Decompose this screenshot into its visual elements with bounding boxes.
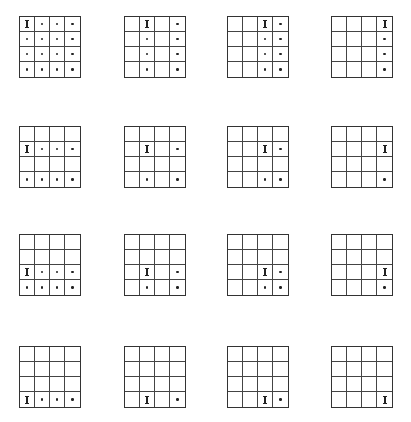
grid-cell	[170, 157, 185, 172]
grid-cell	[65, 347, 80, 362]
grid-cell	[155, 347, 170, 362]
dot-marker-icon	[56, 286, 58, 288]
grid-cell	[362, 172, 377, 187]
grid-cell	[35, 172, 50, 187]
dot-marker-icon	[71, 398, 73, 400]
grid-cell	[65, 32, 80, 47]
grid-cell	[332, 250, 347, 265]
grid-cell	[65, 17, 80, 32]
grid-cell	[20, 265, 35, 280]
dot-marker-icon	[279, 23, 281, 25]
grid-cell	[65, 142, 80, 157]
grid-cell	[140, 32, 155, 47]
grid-cell	[125, 142, 140, 157]
dot-marker-icon	[279, 271, 281, 273]
grid-cell	[50, 280, 65, 295]
dot-marker-icon	[176, 68, 178, 70]
dot-marker-icon	[279, 68, 281, 70]
grid-cell	[35, 142, 50, 157]
grid-cell	[273, 62, 288, 77]
grid-cell	[35, 392, 50, 407]
grid-cell	[20, 62, 35, 77]
dot-marker-icon	[26, 38, 28, 40]
grid-cell	[20, 377, 35, 392]
grid-cell	[155, 235, 170, 250]
grid-cell	[20, 362, 35, 377]
grid-cell	[347, 265, 362, 280]
grid-cell	[35, 265, 50, 280]
grid-cell	[65, 235, 80, 250]
grid-cell	[125, 265, 140, 280]
grid-cell	[243, 347, 258, 362]
grid-cell	[228, 347, 243, 362]
grid-cell	[155, 172, 170, 187]
grid-cell	[228, 392, 243, 407]
grid-cell	[140, 47, 155, 62]
grid-cell	[155, 32, 170, 47]
grid-cell	[50, 235, 65, 250]
grid-cell	[347, 362, 362, 377]
dot-marker-icon	[146, 53, 148, 55]
dot-marker-icon	[176, 398, 178, 400]
grid-cell	[125, 280, 140, 295]
grid-cell	[258, 347, 273, 362]
grid-cell	[258, 265, 273, 280]
grid-cell	[140, 127, 155, 142]
grid-cell	[273, 127, 288, 142]
grid-cell	[243, 280, 258, 295]
dot-marker-icon	[71, 178, 73, 180]
grid-cell	[35, 127, 50, 142]
grid-cell	[170, 347, 185, 362]
grid-cell	[347, 17, 362, 32]
grid-cell	[243, 32, 258, 47]
grid-cell	[170, 280, 185, 295]
grid-cell	[332, 47, 347, 62]
grid-cell	[50, 172, 65, 187]
lattice-grid-r3-c0	[19, 346, 81, 408]
grid-cell	[258, 157, 273, 172]
grid-cell	[50, 392, 65, 407]
dot-marker-icon	[56, 23, 58, 25]
grid-cell	[273, 17, 288, 32]
grid-cell	[20, 250, 35, 265]
grid-cell	[35, 17, 50, 32]
dot-marker-icon	[71, 23, 73, 25]
grid-cell	[35, 377, 50, 392]
grid-cell	[332, 392, 347, 407]
grid-cell	[155, 142, 170, 157]
grid-cell	[170, 32, 185, 47]
grid-cell	[273, 250, 288, 265]
grid-cell	[362, 362, 377, 377]
dot-marker-icon	[264, 286, 266, 288]
grid-cell	[332, 280, 347, 295]
grid-cell	[258, 142, 273, 157]
grid-cell	[273, 172, 288, 187]
grid-cell	[228, 172, 243, 187]
grid-cell	[125, 377, 140, 392]
dot-marker-icon	[71, 68, 73, 70]
grid-cell	[125, 392, 140, 407]
dot-marker-icon	[71, 148, 73, 150]
i-bar-marker-icon	[26, 268, 28, 276]
grid-cell	[155, 62, 170, 77]
grid-cell	[228, 32, 243, 47]
dot-marker-icon	[41, 148, 43, 150]
dot-marker-icon	[176, 23, 178, 25]
grid-cell	[228, 127, 243, 142]
lattice-grid-r0-c2	[227, 16, 289, 78]
dot-marker-icon	[26, 178, 28, 180]
lattice-grid-r3-c2	[227, 346, 289, 408]
grid-cell	[347, 250, 362, 265]
grid-cell	[140, 142, 155, 157]
i-bar-marker-icon	[384, 20, 386, 28]
grid-cell	[347, 157, 362, 172]
grid-cell	[377, 47, 392, 62]
grid-cell	[140, 172, 155, 187]
dot-marker-icon	[264, 53, 266, 55]
grid-cell	[377, 142, 392, 157]
grid-cell	[243, 362, 258, 377]
grid-cell	[170, 362, 185, 377]
grid-cell	[347, 142, 362, 157]
grid-cell	[362, 62, 377, 77]
dot-marker-icon	[41, 178, 43, 180]
